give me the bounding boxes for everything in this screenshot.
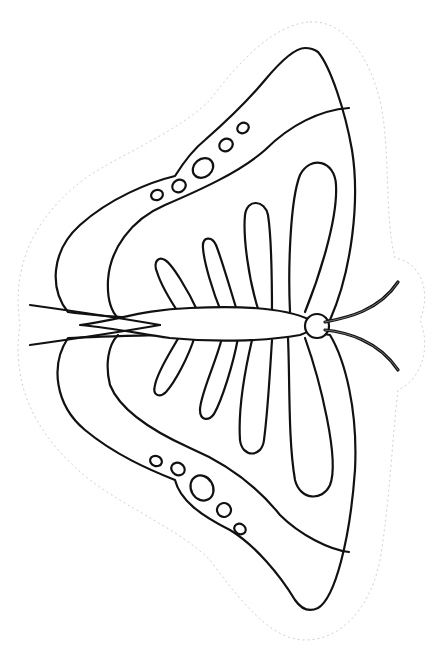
upper-wing [56, 48, 355, 330]
lower-wing [58, 330, 356, 610]
butterfly-coloring-page [0, 0, 441, 649]
butterfly-illustration [0, 0, 441, 649]
butterfly-head [305, 314, 329, 338]
